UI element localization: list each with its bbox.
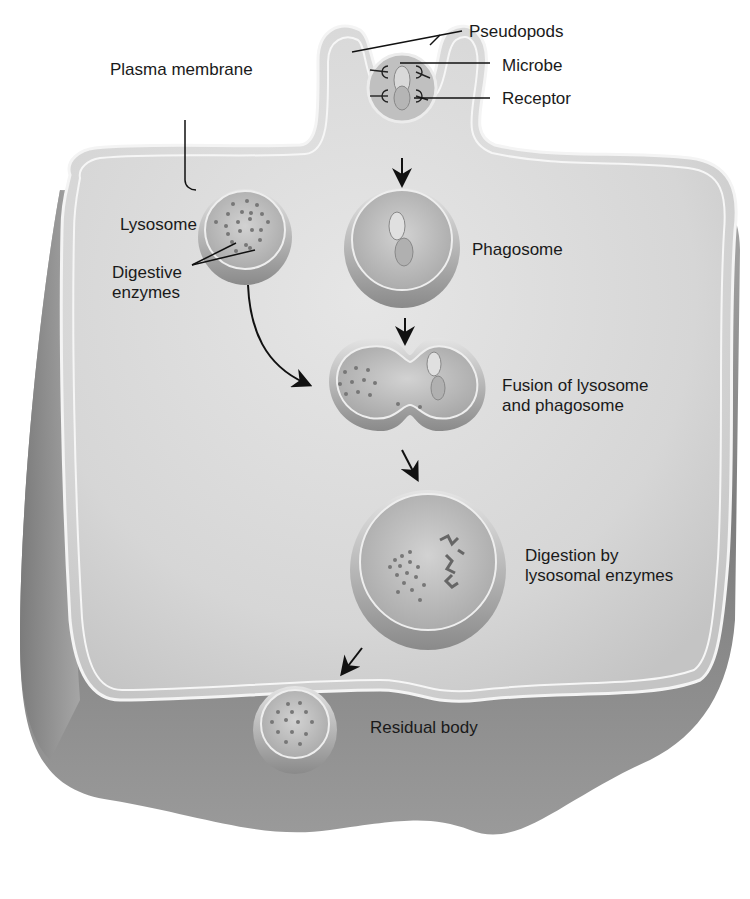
label-lysosome: Lysosome bbox=[120, 215, 197, 235]
engulfment-site bbox=[368, 54, 436, 122]
lysosome bbox=[198, 189, 292, 285]
label-digestion: Digestion by lysosomal enzymes bbox=[525, 546, 673, 586]
label-fusion: Fusion of lysosome and phagosome bbox=[502, 376, 648, 416]
label-receptor: Receptor bbox=[502, 89, 571, 109]
label-pseudopods: Pseudopods bbox=[469, 22, 564, 42]
phagocytosis-diagram: Pseudopods Microbe Receptor Plasma membr… bbox=[0, 0, 750, 899]
digestion-vesicle bbox=[350, 490, 506, 650]
phagosome bbox=[344, 188, 460, 308]
label-residual-body: Residual body bbox=[370, 718, 478, 738]
diagram-canvas bbox=[0, 0, 750, 899]
label-microbe: Microbe bbox=[502, 56, 562, 76]
label-plasma-membrane: Plasma membrane bbox=[110, 60, 253, 80]
label-phagosome: Phagosome bbox=[472, 240, 563, 260]
label-digestive-enzymes: Digestive enzymes bbox=[112, 263, 182, 303]
residual-body bbox=[253, 686, 337, 774]
